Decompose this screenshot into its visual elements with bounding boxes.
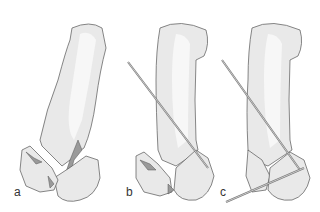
panel-c: c (220, 23, 310, 202)
panel-label-b: b (126, 185, 133, 199)
panel-a: a (14, 24, 106, 201)
panel-b: b (126, 23, 214, 200)
panel-label-c: c (220, 185, 226, 199)
figure: a b c (0, 0, 320, 212)
panel-label-a: a (14, 185, 21, 199)
